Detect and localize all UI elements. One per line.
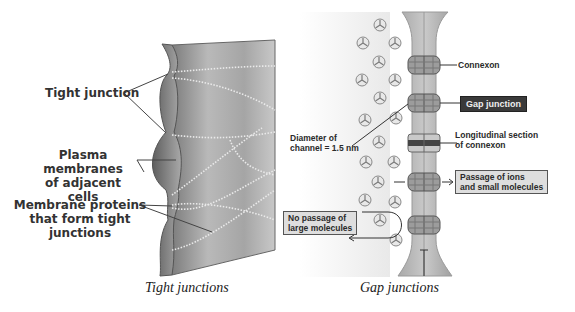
gap-junctions-caption: Gap junctions — [360, 280, 439, 296]
longitudinal-section-label: Longitudinal section of connexon — [455, 130, 538, 150]
tight-junctions-caption: Tight junctions — [145, 280, 229, 296]
connexon-label: Connexon — [458, 60, 500, 70]
membrane-proteins-label: Membrane proteins that form tight juncti… — [10, 198, 150, 240]
plasma-membranes-label: Plasma membranes of adjacent cells — [28, 148, 138, 204]
no-passage-label: No passage of large molecules — [283, 211, 357, 235]
passage-ions-label: Passage of ions and small molecules — [455, 170, 548, 194]
tight-junction-label: Tight junction — [45, 86, 139, 100]
tight-junction-illustration — [124, 40, 275, 276]
channel-diameter-label: Diameter of channel = 1.5 nm — [290, 133, 359, 153]
gap-junction-label: Gap junction — [460, 96, 527, 112]
